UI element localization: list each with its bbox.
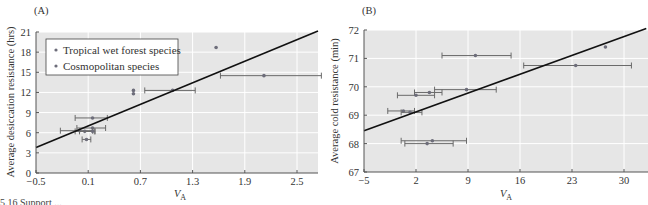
data-point xyxy=(214,46,218,50)
legend-label-tropical: Tropical wet forest species xyxy=(63,44,181,56)
y-tick-label: 72 xyxy=(349,25,360,36)
panel-label-a: (A) xyxy=(34,5,49,17)
x-tick-label: −5 xyxy=(358,175,369,186)
legend-label-cosmopolitan: Cosmopolitan species xyxy=(63,60,159,72)
x-tick-label: 2 xyxy=(413,175,418,186)
y-tick-label: 3 xyxy=(26,148,31,159)
data-point xyxy=(85,138,89,142)
figure: (A) −0.50.10.71.31.92.5036912151821 Aver… xyxy=(0,0,648,205)
data-point xyxy=(414,94,418,98)
y-tick-label: 68 xyxy=(349,139,360,150)
x-tick-label: 23 xyxy=(567,175,578,186)
data-point xyxy=(474,54,478,58)
data-point xyxy=(428,91,432,95)
y-tick-label: 12 xyxy=(21,87,32,98)
y-tick-label: 70 xyxy=(349,82,360,93)
y-tick-label: 71 xyxy=(349,53,360,64)
x-tick-label: 0.7 xyxy=(134,176,147,187)
x-axis-title-a: VA xyxy=(174,188,186,202)
y-tick-label: 0 xyxy=(26,168,31,179)
y-tick-label: 15 xyxy=(21,67,32,78)
y-axis-title-a: Average desiccation resistance (hrs) xyxy=(5,26,17,178)
y-tick-label: 9 xyxy=(26,108,31,119)
data-point xyxy=(91,130,95,134)
x-tick-label: 16 xyxy=(515,175,526,186)
y-tick-label: 21 xyxy=(21,27,32,38)
legend-a: Tropical wet forest species Cosmopolitan… xyxy=(46,39,181,75)
panel-label-b: (B) xyxy=(362,5,377,17)
y-axis-title-b: Average cold resistance (min) xyxy=(329,38,341,164)
x-tick-label: 1.9 xyxy=(238,176,251,187)
data-point xyxy=(431,139,435,143)
data-point xyxy=(132,92,136,96)
data-point xyxy=(465,88,469,92)
y-tick-label: 18 xyxy=(21,47,32,58)
x-tick-label: 2.5 xyxy=(290,176,303,187)
data-point xyxy=(262,74,266,78)
y-tick-label: 67 xyxy=(349,167,360,178)
data-point xyxy=(425,142,429,146)
x-axis-title-b: VA xyxy=(500,188,512,202)
figure-caption-fragment: 5.16 Support ... xyxy=(0,197,62,205)
legend-marker-tropical xyxy=(54,48,57,51)
data-point xyxy=(91,116,95,120)
chart-b: (B) −529162330676869707172 Average cold … xyxy=(329,5,648,202)
x-tick-label: 30 xyxy=(619,175,630,186)
x-tick-label: 1.3 xyxy=(186,176,199,187)
chart-a: (A) −0.50.10.71.31.92.5036912151821 Aver… xyxy=(5,5,321,202)
y-tick-label: 6 xyxy=(26,128,31,139)
data-point xyxy=(604,45,608,49)
x-tick-label: 0.1 xyxy=(82,176,95,187)
y-tick-label: 69 xyxy=(349,110,360,121)
legend-marker-cosmopolitan xyxy=(54,64,57,67)
x-tick-label: 9 xyxy=(465,175,470,186)
plot-area-b xyxy=(364,30,648,172)
data-point xyxy=(132,89,136,93)
data-point xyxy=(574,64,578,68)
